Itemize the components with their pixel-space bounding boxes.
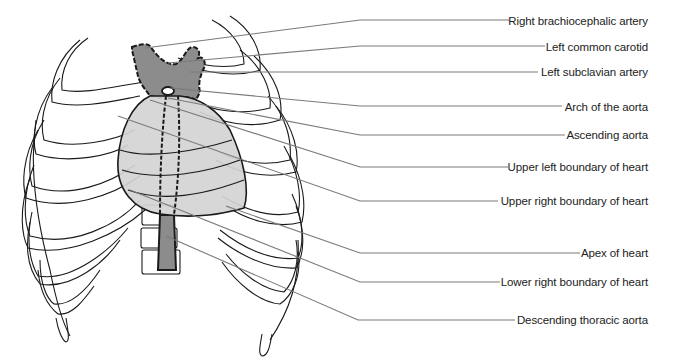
heart-outline [118,96,246,216]
leader-apex-of-heart [226,206,580,253]
label-left-common-carotid: Left common carotid [546,40,648,54]
label-lower-right-boundary-of-heart: Lower right boundary of heart [501,275,648,289]
label-apex-of-heart: Apex of heart [581,246,648,260]
leader-arch-of-the-aorta [170,88,562,106]
leader-left-common-carotid [168,46,545,63]
label-upper-left-boundary-of-heart: Upper left boundary of heart [508,160,648,174]
label-descending-thoracic-aorta: Descending thoracic aorta [517,313,648,327]
leader-right-brachiocephalic-artery [145,20,510,48]
label-ascending-aorta: Ascending aorta [566,128,648,142]
label-arch-of-the-aorta: Arch of the aorta [565,100,648,114]
thoracic-cage-illustration [0,0,677,364]
label-left-subclavian-artery: Left subclavian artery [541,65,648,79]
label-right-brachiocephalic-artery: Right brachiocephalic artery [508,14,648,28]
label-upper-right-boundary-of-heart: Upper right boundary of heart [501,194,648,208]
leader-descending-thoracic-aorta [166,236,515,320]
